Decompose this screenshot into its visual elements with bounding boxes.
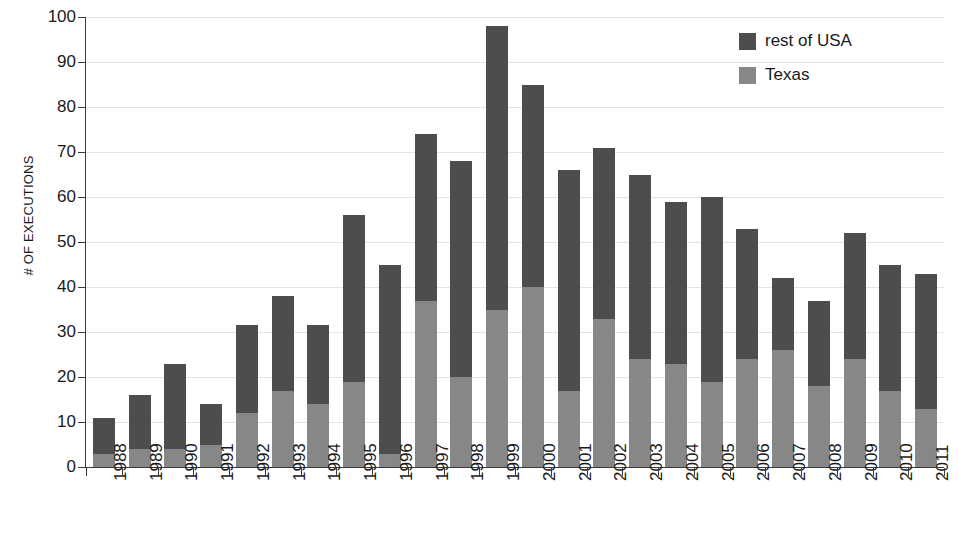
x-tick-mark	[908, 468, 909, 476]
x-tick-mark	[193, 468, 194, 476]
bar-segment-rest-of-usa[interactable]	[486, 26, 508, 310]
bar-segment-rest-of-usa[interactable]	[736, 229, 758, 360]
x-tick-label-1988: 1988	[112, 411, 129, 481]
x-tick-label-2010: 2010	[898, 411, 915, 481]
y-tick-label: 60	[36, 188, 76, 205]
x-tick-mark	[873, 468, 874, 476]
y-tick-label: 70	[36, 143, 76, 160]
x-tick-mark	[86, 468, 87, 476]
x-tick-mark	[301, 468, 302, 476]
gridline	[86, 242, 944, 243]
x-tick-label-1997: 1997	[434, 411, 451, 481]
x-tick-mark	[444, 468, 445, 476]
x-tick-mark	[765, 468, 766, 476]
x-tick-label-2004: 2004	[684, 411, 701, 481]
bar-segment-rest-of-usa[interactable]	[272, 296, 294, 391]
x-tick-mark	[515, 468, 516, 476]
x-tick-label-1992: 1992	[255, 411, 272, 481]
x-tick-mark	[265, 468, 266, 476]
x-tick-mark	[694, 468, 695, 476]
y-tick-label: 10	[36, 413, 76, 430]
x-tick-mark	[551, 468, 552, 476]
x-tick-label-1999: 1999	[505, 411, 522, 481]
executions-stacked-bar-chart: # OF EXECUTIONS 0102030405060708090100 1…	[0, 0, 959, 533]
bar-segment-rest-of-usa[interactable]	[629, 175, 651, 360]
x-tick-mark	[730, 468, 731, 476]
legend-label: rest of USA	[765, 31, 852, 51]
bar-segment-rest-of-usa[interactable]	[522, 85, 544, 288]
x-tick-label-2000: 2000	[541, 411, 558, 481]
bar-segment-rest-of-usa[interactable]	[879, 265, 901, 391]
x-tick-mark	[658, 468, 659, 476]
x-tick-mark	[622, 468, 623, 476]
bar-segment-rest-of-usa[interactable]	[415, 134, 437, 301]
x-tick-label-2009: 2009	[863, 411, 880, 481]
y-tick-label: 0	[36, 458, 76, 475]
bar-segment-rest-of-usa[interactable]	[665, 202, 687, 364]
legend-swatch-texas	[739, 67, 756, 84]
bar-segment-rest-of-usa[interactable]	[343, 215, 365, 382]
y-tick-label: 90	[36, 53, 76, 70]
x-tick-mark	[801, 468, 802, 476]
x-tick-mark	[336, 468, 337, 476]
x-tick-label-1990: 1990	[183, 411, 200, 481]
x-tick-label-1991: 1991	[219, 411, 236, 481]
legend-item-texas[interactable]: Texas	[739, 58, 949, 92]
x-tick-label-2007: 2007	[791, 411, 808, 481]
y-axis-ticks: 0102030405060708090100	[0, 0, 76, 533]
legend-swatch-rest-of-usa	[739, 33, 756, 50]
x-tick-label-1994: 1994	[326, 411, 343, 481]
x-tick-label-1998: 1998	[469, 411, 486, 481]
x-tick-label-2008: 2008	[827, 411, 844, 481]
x-tick-label-2003: 2003	[648, 411, 665, 481]
x-tick-mark	[944, 468, 945, 476]
y-tick-label: 100	[36, 8, 76, 25]
x-tick-label-1989: 1989	[148, 411, 165, 481]
x-tick-mark	[158, 468, 159, 476]
y-tick-label: 30	[36, 323, 76, 340]
chart-legend: rest of USATexas	[739, 24, 949, 92]
x-tick-label-1993: 1993	[291, 411, 308, 481]
x-tick-label-1995: 1995	[362, 411, 379, 481]
bar-segment-rest-of-usa[interactable]	[772, 278, 794, 350]
bar-segment-rest-of-usa[interactable]	[593, 148, 615, 319]
legend-item-rest-of-usa[interactable]: rest of USA	[739, 24, 949, 58]
y-tick-label: 50	[36, 233, 76, 250]
gridline	[86, 287, 944, 288]
bar-segment-rest-of-usa[interactable]	[701, 197, 723, 382]
bar-segment-rest-of-usa[interactable]	[450, 161, 472, 377]
bar-segment-rest-of-usa[interactable]	[558, 170, 580, 391]
y-tick-label: 80	[36, 98, 76, 115]
x-tick-label-2002: 2002	[612, 411, 629, 481]
bar-segment-rest-of-usa[interactable]	[307, 325, 329, 404]
x-tick-label-2011: 2011	[934, 411, 951, 481]
y-tick-label: 20	[36, 368, 76, 385]
x-tick-mark	[837, 468, 838, 476]
gridline	[86, 107, 944, 108]
x-tick-label-2006: 2006	[755, 411, 772, 481]
x-tick-mark	[479, 468, 480, 476]
bar-segment-rest-of-usa[interactable]	[236, 325, 258, 413]
legend-label: Texas	[765, 65, 809, 85]
x-tick-label-1996: 1996	[398, 411, 415, 481]
bar-segment-rest-of-usa[interactable]	[808, 301, 830, 387]
gridline	[86, 197, 944, 198]
x-tick-mark	[587, 468, 588, 476]
x-tick-label-2001: 2001	[577, 411, 594, 481]
y-tick-label: 40	[36, 278, 76, 295]
x-tick-mark	[408, 468, 409, 476]
gridline	[86, 152, 944, 153]
x-tick-mark	[229, 468, 230, 476]
bar-segment-rest-of-usa[interactable]	[844, 233, 866, 359]
gridline	[86, 17, 944, 18]
bar-segment-rest-of-usa[interactable]	[915, 274, 937, 409]
x-tick-label-2005: 2005	[720, 411, 737, 481]
x-tick-mark	[372, 468, 373, 476]
x-tick-mark	[122, 468, 123, 476]
